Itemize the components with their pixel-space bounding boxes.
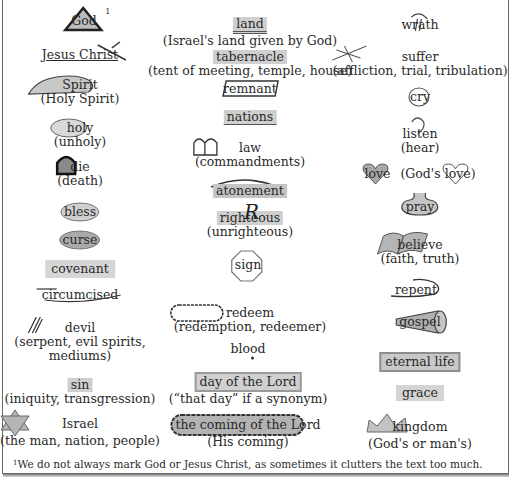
symbol-tabernacle: tabernacle (tent of meeting, temple, hou… xyxy=(148,50,352,78)
crown-of-thorns-icon xyxy=(330,44,370,64)
symbol-remnant: remnant xyxy=(223,82,277,96)
symbol-wrath: wrath xyxy=(401,18,438,32)
symbol-holy: holy (unholy) xyxy=(54,121,107,149)
symbol-listen: listen (hear) xyxy=(401,127,440,155)
footnote-text: We do not always mark God or Jesus Chris… xyxy=(17,458,482,470)
word-gospel: gospel xyxy=(399,315,440,329)
symbol-kingdom: kingdom (God's or man's) xyxy=(368,420,472,451)
word-grace: grace xyxy=(396,385,444,401)
sub-listen: (hear) xyxy=(401,141,440,155)
word-bless: bless xyxy=(64,205,96,219)
symbol-land: land (Israel's land given by God) xyxy=(163,17,337,48)
word-sign: sign xyxy=(235,258,261,272)
word-listen: listen xyxy=(403,127,438,141)
word-nations: nations xyxy=(224,110,277,125)
sub-spirit: (Holy Spirit) xyxy=(41,92,120,106)
word-spirit: Spirit xyxy=(62,78,98,92)
sub-die: (death) xyxy=(57,174,103,188)
sub-devil-2: mediums) xyxy=(14,349,145,363)
love-heart-filled: love xyxy=(364,167,390,181)
symbol-sin: sin (iniquity, transgression) xyxy=(5,378,156,406)
symbol-covenant: covenant xyxy=(45,260,115,278)
sub-tabernacle: (tent of meeting, temple, house) xyxy=(148,64,352,78)
symbol-pray: pray xyxy=(406,200,435,214)
word-land: land xyxy=(233,17,267,34)
word-wrath: wrath xyxy=(401,18,438,32)
symbol-suffer: suffer (affliction, trial, tribulation) xyxy=(332,50,507,78)
symbol-die: die (death) xyxy=(57,160,103,188)
symbol-law: law (commandments) xyxy=(195,141,305,169)
sub-love-post: ) xyxy=(471,166,476,181)
word-day-of-the-lord: day of the Lord xyxy=(195,372,302,392)
word-coming-of-the-lord: the coming of the Lord xyxy=(175,418,320,432)
word-eternal-life: eternal life xyxy=(379,352,460,372)
sub-sin: (iniquity, transgression) xyxy=(5,392,156,406)
symbol-circumcised: circumcised xyxy=(42,288,119,302)
word-remnant: remnant xyxy=(223,82,277,96)
word-devil: devil xyxy=(65,321,95,335)
symbol-coming-of-the-lord: the coming of the Lord (His coming) xyxy=(175,418,320,449)
word-believe: believe xyxy=(397,238,442,252)
page-edge-shadow xyxy=(3,474,509,477)
word-love-2: love xyxy=(445,166,471,181)
r-overlay-icon: R xyxy=(244,205,259,219)
symbol-god: God1 xyxy=(71,14,97,28)
word-pray: pray xyxy=(406,200,435,214)
symbol-day-of-the-lord: day of the Lord (“that day” if a synonym… xyxy=(169,372,328,406)
symbol-grace: grace xyxy=(396,385,444,401)
symbol-curse: curse xyxy=(63,233,98,247)
word-die: die xyxy=(70,160,89,174)
word-covenant: covenant xyxy=(45,260,115,278)
symbol-sign: sign xyxy=(235,258,261,272)
word-atonement: atonement xyxy=(213,184,287,198)
sub-suffer: (affliction, trial, tribulation) xyxy=(332,64,507,78)
symbol-blood: blood xyxy=(230,342,265,356)
word-circumcised: circumcised xyxy=(42,288,119,302)
sub-day-of-the-lord: (“that day” if a synonym) xyxy=(169,392,328,406)
symbol-bless: bless xyxy=(64,205,96,219)
word-law: law xyxy=(239,141,261,155)
footnote: 1We do not always mark God or Jesus Chri… xyxy=(13,458,483,470)
sub-law: (commandments) xyxy=(195,155,305,169)
symbol-spirit: Spirit (Holy Spirit) xyxy=(41,78,120,106)
word-jesus-christ: Jesus Christ xyxy=(42,47,118,62)
symbol-righteous: righteous R (unrighteous) xyxy=(207,211,293,239)
symbol-israel: Israel (the man, nation, people) xyxy=(0,417,160,448)
sub-land: (Israel's land given by God) xyxy=(163,34,337,48)
word-israel: Israel xyxy=(62,417,98,431)
symbol-atonement: atonement xyxy=(213,184,287,198)
word-god: God xyxy=(71,14,97,28)
word-blood: blood xyxy=(230,342,265,356)
sub-believe: (faith, truth) xyxy=(381,252,460,266)
word-tabernacle: tabernacle xyxy=(213,50,287,64)
word-love: love xyxy=(364,166,390,181)
sub-love-pre: (God's xyxy=(400,166,440,181)
word-cry: cry xyxy=(410,90,430,104)
word-repent: repent xyxy=(395,283,437,297)
sub-israel: (the man, nation, people) xyxy=(0,434,160,448)
word-sin: sin xyxy=(68,378,92,392)
word-curse: curse xyxy=(63,233,98,247)
symbol-cry: cry xyxy=(410,90,430,104)
symbol-redeem: redeem (redemption, redeemer) xyxy=(174,306,326,334)
word-redeem: redeem xyxy=(226,306,274,320)
symbol-gospel: gospel xyxy=(399,315,440,329)
word-holy: holy xyxy=(67,121,94,135)
symbol-jesus-christ: Jesus Christ xyxy=(42,48,118,62)
symbol-nations: nations xyxy=(224,110,277,125)
symbol-love: love (God's love) xyxy=(364,167,475,181)
symbol-devil: devil (serpent, evil spirits, mediums) xyxy=(14,321,145,363)
symbol-repent: repent xyxy=(395,283,437,297)
sub-redeem: (redemption, redeemer) xyxy=(174,320,326,334)
sub-righteous: (unrighteous) xyxy=(207,225,293,239)
symbol-believe: believe (faith, truth) xyxy=(381,238,460,266)
symbol-eternal-life: eternal life xyxy=(379,352,460,372)
sub-coming-of-the-lord: (His coming) xyxy=(175,435,320,449)
sub-holy: (unholy) xyxy=(54,135,107,149)
word-suffer: suffer xyxy=(402,50,439,64)
word-kingdom: kingdom xyxy=(392,420,447,434)
love-heart-outline: love xyxy=(445,167,471,181)
pitchfork-icon xyxy=(24,315,44,335)
footnote-ref: 1 xyxy=(105,5,110,19)
sub-kingdom: (God's or man's) xyxy=(368,437,472,451)
